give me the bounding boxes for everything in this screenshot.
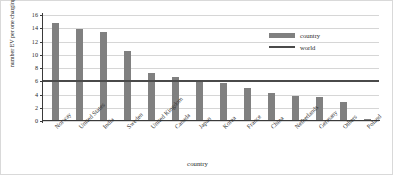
y-tick-mark [40, 42, 43, 43]
y-tick-label: 14 [16, 24, 38, 31]
legend-label-world: world [300, 44, 315, 51]
bar [244, 88, 251, 121]
x-axis-title: country [1, 160, 393, 167]
legend-bar-swatch-icon [269, 33, 295, 38]
y-tick-label: 4 [16, 91, 38, 98]
world-reference-line [43, 80, 379, 82]
gridline [43, 55, 379, 56]
y-tick-mark [40, 15, 43, 16]
bar [52, 23, 59, 121]
gridline [43, 68, 379, 69]
bar [124, 51, 131, 121]
y-tick-mark [40, 121, 43, 122]
y-tick-label: 2 [16, 104, 38, 111]
bar [196, 80, 203, 121]
bar [340, 102, 347, 121]
y-tick-label: 8 [16, 64, 38, 71]
legend-item-country: country [269, 29, 369, 41]
bar [268, 93, 275, 121]
legend-label-country: country [300, 32, 320, 39]
y-tick-mark [40, 28, 43, 29]
y-tick-label: 16 [16, 11, 38, 18]
legend-line-swatch-icon [269, 46, 295, 48]
y-tick-mark [40, 55, 43, 56]
y-tick-mark [40, 81, 43, 82]
bar [220, 83, 227, 121]
chart-container: number EV per one charging station 02468… [0, 0, 393, 175]
y-tick-mark [40, 68, 43, 69]
y-tick-label: 6 [16, 77, 38, 84]
y-tick-mark [40, 95, 43, 96]
gridline [43, 95, 379, 96]
legend: country world [269, 29, 369, 53]
legend-item-world: world [269, 41, 369, 53]
y-tick-label: 10 [16, 51, 38, 58]
y-tick-label: 0 [16, 117, 38, 124]
bar [76, 29, 83, 121]
y-tick-label: 12 [16, 38, 38, 45]
gridline [43, 15, 379, 16]
bar [292, 96, 299, 121]
y-tick-mark [40, 108, 43, 109]
